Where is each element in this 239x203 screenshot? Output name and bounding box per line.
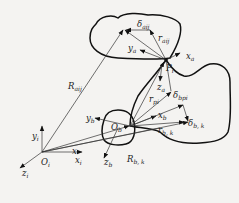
aux-line	[42, 128, 160, 152]
label-z-b: zb	[103, 157, 112, 168]
label-z-i: zi	[21, 168, 28, 179]
point-Pi	[164, 58, 168, 62]
frame-diagram: δaij raij ya xa Pi za rpi δbpi Raij xb δ…	[0, 0, 239, 203]
label-r-pi: rpi	[149, 94, 159, 106]
label-z-a: za	[156, 82, 165, 93]
label-delta-aij: δaij	[137, 19, 150, 31]
label-delta-bpi: δbpi	[173, 90, 188, 102]
label-y-i: yi	[31, 131, 39, 142]
label-x-a: xa	[186, 51, 195, 62]
label-delta-bk: δb, k	[188, 118, 205, 129]
label-O-i: Oi	[41, 157, 50, 168]
label-R-bk: Rb, k	[126, 154, 145, 165]
label-y-b: yb	[85, 113, 95, 124]
label-x-i: xi	[75, 155, 82, 166]
R-aij-vector	[42, 30, 123, 152]
z-i-axis	[20, 152, 42, 168]
label-P-i: Pi	[165, 63, 174, 74]
label-R-aij: Raij	[67, 81, 82, 93]
label-y-a: ya	[127, 43, 137, 54]
label-r-aij: raij	[158, 33, 170, 45]
